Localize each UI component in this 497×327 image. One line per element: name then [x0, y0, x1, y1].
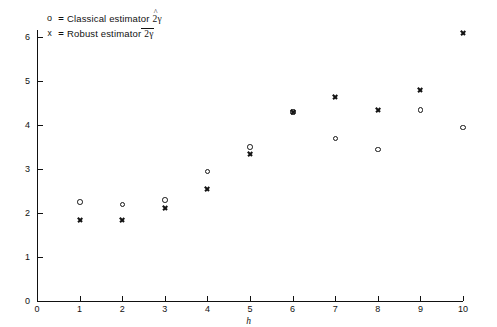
y-tick-label-4: 4 [8, 121, 30, 130]
x-tick-4 [207, 296, 208, 301]
x-tick-label-5: 5 [238, 305, 262, 314]
x-axis-label: h [0, 316, 497, 326]
x-tick-8 [378, 296, 379, 301]
x-tick-2 [122, 296, 123, 301]
y-tick-3 [38, 169, 43, 170]
x-tick-label-8: 8 [366, 305, 390, 314]
x-tick-label-6: 6 [281, 305, 305, 314]
x-tick-label-1: 1 [68, 305, 92, 314]
y-tick-1 [38, 257, 43, 258]
x-tick-label-9: 9 [408, 305, 432, 314]
y-tick-6 [38, 37, 43, 38]
y-tick-label-1: 1 [8, 253, 30, 262]
y-tick-5 [38, 81, 43, 82]
x-tick-10 [463, 296, 464, 301]
x-tick-9 [420, 296, 421, 301]
y-tick-label-5: 5 [8, 77, 30, 86]
y-tick-2 [38, 213, 43, 214]
x-axis-line [37, 301, 463, 302]
x-tick-label-7: 7 [323, 305, 347, 314]
variogram-scatter-figure: o = Classical estimator 2γ^ x = Robust e… [0, 0, 497, 327]
x-tick-1 [80, 296, 81, 301]
x-tick-label-2: 2 [110, 305, 134, 314]
x-tick-6 [293, 296, 294, 301]
y-tick-4 [38, 125, 43, 126]
x-tick-5 [250, 296, 251, 301]
x-tick-3 [165, 296, 166, 301]
y-axis-line [37, 30, 38, 302]
x-tick-7 [335, 296, 336, 301]
x-tick-label-0: 0 [25, 305, 49, 314]
x-tick-label-10: 10 [451, 305, 475, 314]
y-tick-label-2: 2 [8, 209, 30, 218]
x-tick-label-3: 3 [153, 305, 177, 314]
plot-area: 0123456 012345678910 h [0, 0, 497, 327]
y-tick-label-6: 6 [8, 33, 30, 42]
y-tick-label-3: 3 [8, 165, 30, 174]
x-tick-label-4: 4 [195, 305, 219, 314]
